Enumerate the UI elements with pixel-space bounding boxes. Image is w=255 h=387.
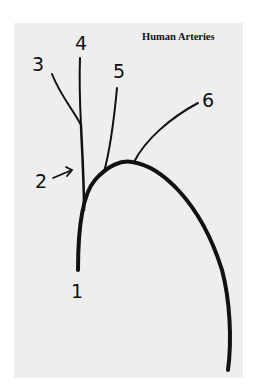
vessel-4 — [80, 58, 81, 125]
arrow-2 — [53, 167, 72, 178]
label-6: 6 — [202, 91, 214, 110]
vessel-6 — [134, 103, 198, 162]
label-5: 5 — [113, 62, 125, 81]
label-1: 1 — [71, 282, 83, 301]
label-2: 2 — [35, 172, 47, 191]
vessel-5 — [104, 88, 117, 172]
diagram-title: Human Arteries — [142, 31, 215, 42]
vessel-2 — [81, 125, 84, 210]
aorta-arch — [78, 162, 230, 370]
label-3: 3 — [32, 55, 44, 74]
vessel-3 — [52, 74, 81, 125]
label-4: 4 — [75, 34, 87, 53]
